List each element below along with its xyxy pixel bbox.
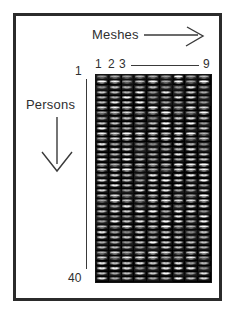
column-tick-9: 9	[203, 57, 210, 71]
column-axis-rule	[131, 65, 199, 66]
column-tick-1: 1	[95, 57, 102, 71]
face-thumbnail-cell	[96, 277, 109, 282]
face-thumbnail-cell	[198, 277, 211, 282]
row-tick-40: 40	[68, 271, 81, 285]
figure-root: Meshes 1 2 3 9 Persons 1 40	[0, 0, 239, 320]
column-tick-2: 2	[108, 57, 115, 71]
face-thumbnail-cell	[173, 277, 186, 282]
face-thumbnail-cell	[134, 277, 147, 282]
face-thumbnail-cell	[160, 277, 173, 282]
right-arrow-icon	[142, 26, 210, 52]
face-thumbnail-cell	[185, 277, 198, 282]
down-arrow-icon	[38, 116, 76, 174]
face-thumbnail-cell	[122, 277, 135, 282]
face-thumbnail-grid	[95, 74, 212, 283]
row-tick-1: 1	[75, 64, 82, 78]
column-tick-3: 3	[119, 57, 126, 71]
face-thumbnail-cell	[109, 277, 122, 282]
face-thumbnail-cell	[147, 277, 160, 282]
meshes-axis-label: Meshes	[92, 27, 139, 42]
persons-axis-label: Persons	[26, 97, 75, 112]
row-axis-rule	[86, 79, 87, 269]
